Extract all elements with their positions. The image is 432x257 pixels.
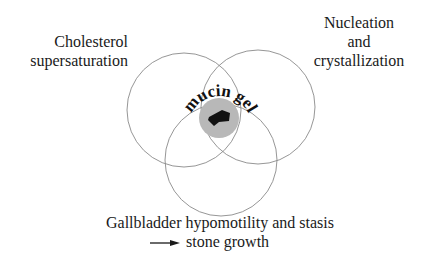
stone-growth-text: stone growth: [186, 233, 269, 250]
gallbladder-hypomotility-label: Gallbladder hypomotility and stasis: [40, 213, 400, 232]
cholesterol-supersaturation-label: Cholesterol supersaturation: [10, 32, 128, 70]
nucleation-crystallization-label: Nucleation and crystallization: [286, 13, 432, 70]
label-line: Cholesterol: [10, 32, 128, 51]
label-line: and: [286, 32, 432, 51]
label-line: supersaturation: [10, 51, 128, 70]
label-line: Nucleation: [286, 13, 432, 32]
label-line: crystallization: [286, 51, 432, 70]
stone-growth-label: stone growth: [150, 232, 350, 251]
right-arrow-icon: [150, 238, 180, 248]
